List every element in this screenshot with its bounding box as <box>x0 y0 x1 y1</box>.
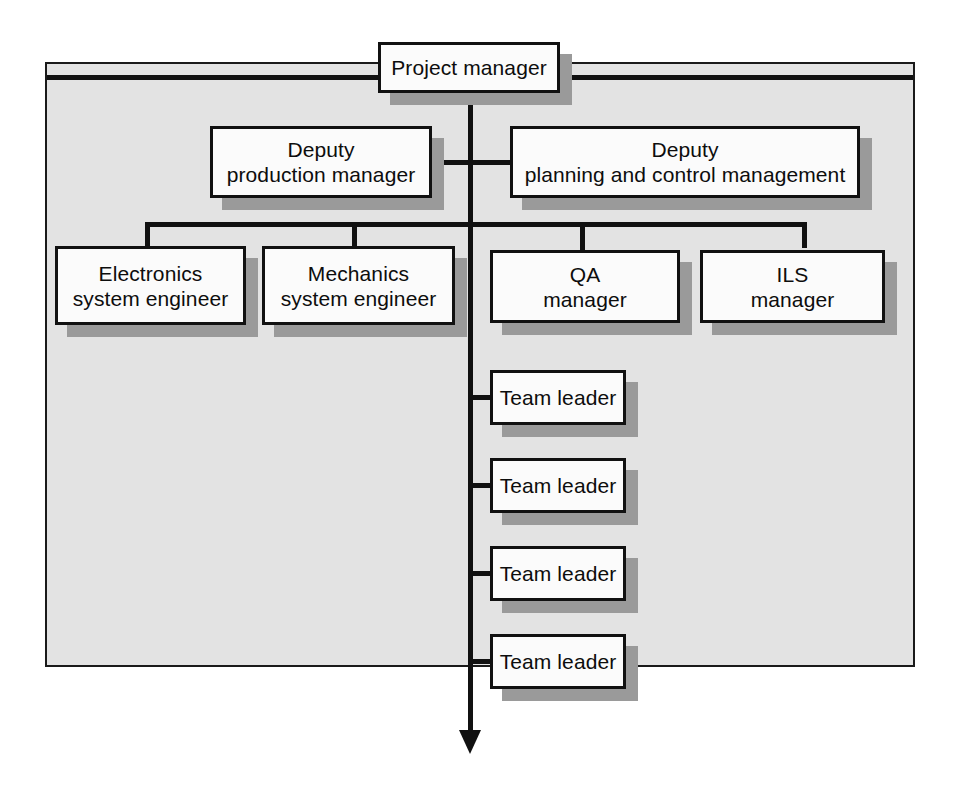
node-deputy-planning-and-control-management[interactable]: Deputy planning and control management <box>510 126 860 198</box>
figure-canvas: Project manager Deputy production manage… <box>0 0 955 790</box>
node-team-leader-2[interactable]: Team leader <box>490 458 626 513</box>
node-label: Team leader <box>500 473 617 498</box>
node-label: Team leader <box>500 649 617 674</box>
node-deputy-production-manager[interactable]: Deputy production manager <box>210 126 432 198</box>
connector-level3-horizontal-bus <box>145 222 807 227</box>
connector-drop-electronics <box>145 222 150 248</box>
continuation-arrow-icon <box>459 730 481 754</box>
connector-main-vertical-spine <box>468 93 473 738</box>
node-project-manager[interactable]: Project manager <box>378 42 560 93</box>
connector-drop-qa <box>580 222 585 252</box>
node-team-leader-1[interactable]: Team leader <box>490 370 626 425</box>
node-label: Mechanics system engineer <box>281 261 437 311</box>
node-label: Team leader <box>500 385 617 410</box>
node-label: Deputy production manager <box>227 137 416 187</box>
node-label: Team leader <box>500 561 617 586</box>
node-team-leader-4[interactable]: Team leader <box>490 634 626 689</box>
node-label: QA manager <box>543 262 627 312</box>
connector-drop-mechanics <box>352 222 357 248</box>
node-team-leader-3[interactable]: Team leader <box>490 546 626 601</box>
node-qa-manager[interactable]: QA manager <box>490 250 680 323</box>
node-label: ILS manager <box>751 262 835 312</box>
node-electronics-system-engineer[interactable]: Electronics system engineer <box>55 246 246 325</box>
node-label: Electronics system engineer <box>73 261 229 311</box>
node-mechanics-system-engineer[interactable]: Mechanics system engineer <box>262 246 455 325</box>
node-label: Project manager <box>391 55 547 80</box>
connector-drop-ils <box>802 222 807 248</box>
node-ils-manager[interactable]: ILS manager <box>700 250 885 323</box>
node-label: Deputy planning and control management <box>525 137 846 187</box>
